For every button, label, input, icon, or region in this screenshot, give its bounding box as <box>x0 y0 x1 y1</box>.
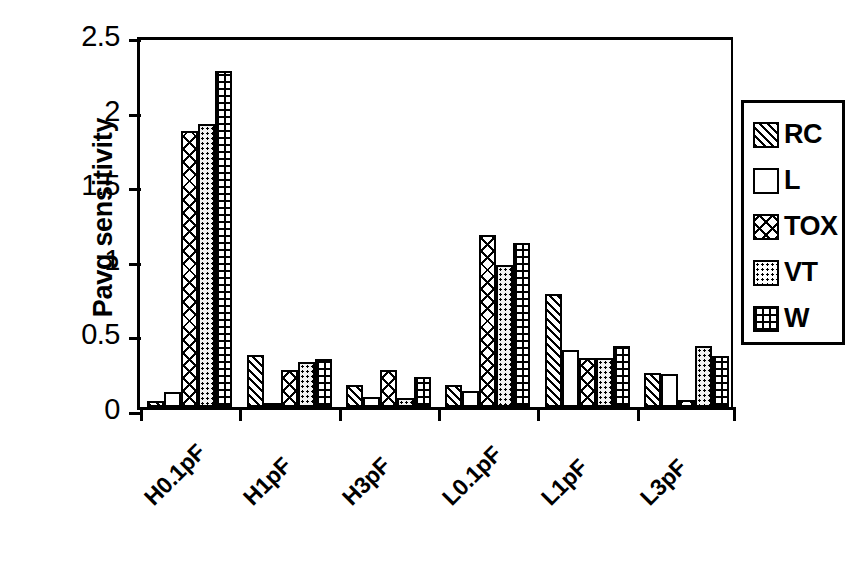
legend-item-tox[interactable]: TOX <box>753 204 842 249</box>
bar-w-l3pf <box>712 356 729 407</box>
bar-l-l1pf <box>562 350 579 407</box>
x-axis-tick-label: H3pF <box>337 452 396 511</box>
bar-w-h3pf <box>414 377 431 407</box>
bar-l-h0-1pf <box>164 392 181 407</box>
bar-vt-h1pf <box>298 362 315 407</box>
bar-vt-l3pf <box>695 346 712 407</box>
bar-w-l0-1pf <box>513 243 530 407</box>
x-axis-tick-mark <box>733 407 736 421</box>
y-axis-tick-mark <box>129 114 141 117</box>
x-axis-tick-mark <box>239 407 242 421</box>
bar-w-l1pf <box>613 346 630 407</box>
legend-swatch-l-icon <box>753 168 779 194</box>
legend-label: L <box>784 167 800 194</box>
x-axis-tick-label: L1pF <box>536 454 593 511</box>
legend-item-l[interactable]: L <box>753 158 842 203</box>
y-axis-tick-label: 0 <box>44 395 120 424</box>
bar-rc-l0-1pf <box>445 385 462 407</box>
bar-tox-h3pf <box>380 370 397 407</box>
bar-rc-l3pf <box>644 373 661 407</box>
bar-l-l3pf <box>661 374 678 407</box>
x-axis-tick-mark <box>339 407 342 421</box>
bar-l-h3pf <box>363 397 380 407</box>
legend: RCLTOXVTW <box>741 100 845 345</box>
bar-tox-l0-1pf <box>479 235 496 407</box>
x-axis-tick-label: L0.1pF <box>437 441 507 511</box>
legend-label: RC <box>784 121 822 148</box>
x-axis-tick-mark <box>438 407 441 421</box>
x-axis-tick-label: H1pF <box>238 452 297 511</box>
x-axis-tick-label: H0.1pF <box>139 439 211 511</box>
x-axis-tick-mark <box>140 407 143 421</box>
legend-label: W <box>784 305 809 332</box>
y-axis-tick-mark <box>129 337 141 340</box>
legend-label: VT <box>784 259 818 286</box>
x-axis-tick-mark <box>637 407 640 421</box>
y-axis-tick-label: 1 <box>44 246 120 275</box>
y-axis-tick-mark <box>129 188 141 191</box>
bar-rc-h1pf <box>247 355 264 407</box>
bar-tox-l3pf <box>678 400 695 407</box>
x-axis-tick-mark <box>537 407 540 421</box>
bar-vt-l1pf <box>596 358 613 407</box>
bar-rc-l1pf <box>545 294 562 407</box>
legend-swatch-tox-icon <box>753 214 779 240</box>
y-axis-tick-labels: 2.521.510.50 <box>44 0 120 567</box>
bar-w-h1pf <box>315 359 332 407</box>
bar-tox-h0-1pf <box>181 131 198 407</box>
legend-swatch-w-icon <box>753 306 779 332</box>
bar-vt-h0-1pf <box>198 124 215 407</box>
legend-label: TOX <box>784 213 838 240</box>
y-axis-tick-label: 2.5 <box>44 22 120 51</box>
y-axis-tick-label: 2 <box>44 97 120 126</box>
legend-item-vt[interactable]: VT <box>753 250 842 295</box>
x-axis-tick-label: L3pF <box>635 454 692 511</box>
bar-w-h0-1pf <box>215 71 232 407</box>
y-axis-tick-mark <box>129 263 141 266</box>
y-axis-tick-label: 0.5 <box>44 320 120 349</box>
bar-rc-h0-1pf <box>147 401 164 407</box>
bar-rc-h3pf <box>346 385 363 407</box>
bar-l-h1pf <box>264 403 281 407</box>
y-axis-tick-mark <box>129 39 141 42</box>
bar-tox-h1pf <box>281 370 298 407</box>
bar-vt-h3pf <box>397 398 414 407</box>
bar-vt-l0-1pf <box>496 265 513 407</box>
legend-item-rc[interactable]: RC <box>753 112 842 157</box>
plot-area <box>137 37 733 410</box>
bar-tox-l1pf <box>579 358 596 407</box>
bar-l-l0-1pf <box>462 391 479 407</box>
legend-swatch-rc-icon <box>753 122 779 148</box>
y-axis-tick-label: 1.5 <box>44 171 120 200</box>
legend-item-w[interactable]: W <box>753 296 842 341</box>
legend-swatch-vt-icon <box>753 260 779 286</box>
bars-layer <box>140 40 731 407</box>
